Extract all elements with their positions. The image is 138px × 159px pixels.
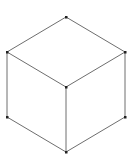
vertex-center	[65, 86, 68, 89]
cube-diagram	[0, 0, 138, 159]
edge-upper-right-to-center	[66, 52, 125, 87]
vertex-bottom	[65, 151, 68, 154]
vertex-top	[65, 16, 68, 19]
cube-edges	[7, 17, 125, 152]
edge-lower-left-to-bottom	[7, 117, 66, 152]
vertex-lower-right	[124, 116, 127, 119]
edge-top-to-upper-left	[7, 17, 66, 52]
vertex-upper-left	[6, 51, 9, 54]
edge-top-to-upper-right	[66, 17, 125, 52]
vertex-upper-right	[124, 51, 127, 54]
edge-lower-right-to-bottom	[66, 117, 125, 152]
vertex-lower-left	[6, 116, 9, 119]
edge-upper-left-to-center	[7, 52, 66, 87]
